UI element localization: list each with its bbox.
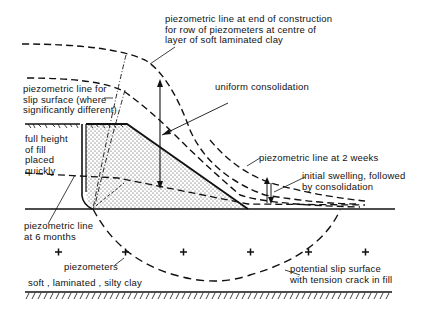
label-slip-surface-line: piezometric line for slip surface (where… (23, 84, 117, 116)
label-uniform-consolidation: uniform consolidation (215, 82, 309, 93)
label-full-height: full height of fill placed quickly (25, 134, 68, 176)
base-hatching (26, 293, 389, 299)
label-potential-slip: potential slip surface with tension crac… (290, 264, 392, 285)
label-end-of-construction: piezometric line at end of construction … (165, 14, 332, 46)
label-soil: soft , laminated , silty clay (28, 278, 142, 289)
label-6-months: piezometric line at 6 months (24, 221, 93, 242)
label-2-weeks: piezometric line at 2 weeks (259, 153, 378, 164)
piezometer-markers (55, 249, 369, 256)
fill-embankment (86, 124, 248, 209)
label-piezometers: piezometers (64, 262, 118, 273)
label-initial-swelling: initial swelling, followed by consolidat… (302, 171, 405, 192)
